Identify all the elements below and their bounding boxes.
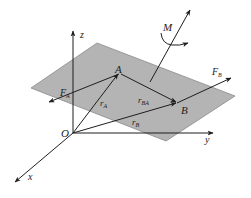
x-axis bbox=[15, 133, 73, 182]
moment-label: M bbox=[162, 21, 173, 33]
rigid-body-force-diagram: z y x O A B M FA FB rA rBA rB bbox=[0, 0, 251, 198]
point-a-label: A bbox=[114, 63, 122, 75]
point-b-label: B bbox=[181, 104, 188, 116]
diagram-canvas: z y x O A B M FA FB rA rBA rB bbox=[0, 0, 251, 198]
f-b-label: FB bbox=[211, 66, 222, 78]
y-axis-label: y bbox=[204, 134, 210, 145]
moment-curl-icon bbox=[161, 33, 188, 45]
x-axis-label: x bbox=[27, 171, 33, 182]
origin-label: O bbox=[61, 127, 69, 139]
z-axis-label: z bbox=[79, 29, 84, 40]
